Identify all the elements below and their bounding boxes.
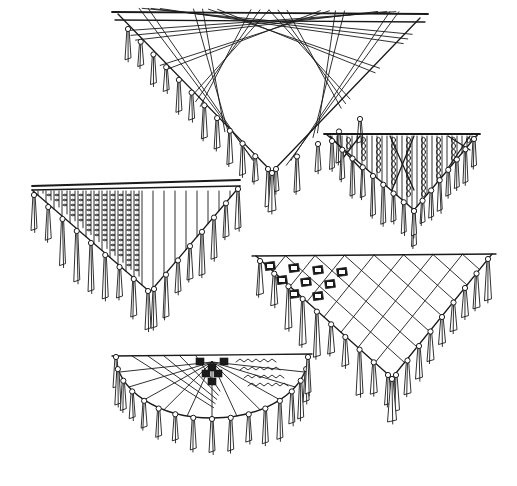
fringe-knot bbox=[187, 244, 192, 249]
fringe-tassel bbox=[257, 258, 264, 297]
fringe-knot bbox=[439, 314, 444, 319]
fringe-tassel bbox=[156, 406, 162, 439]
fringe-knot bbox=[471, 136, 476, 141]
fringe-knot bbox=[189, 90, 194, 95]
stripe-embroidery bbox=[95, 209, 99, 211]
fringe-tassel bbox=[125, 26, 131, 61]
fringe-knot bbox=[428, 329, 433, 334]
zigzag-band bbox=[240, 367, 280, 370]
top-edge bbox=[32, 186, 240, 190]
fringe-strand bbox=[280, 402, 281, 442]
fringe-tassel bbox=[356, 347, 363, 397]
fringe-tassel bbox=[187, 244, 193, 283]
fringe-knot bbox=[454, 157, 459, 162]
motif-square-inner bbox=[339, 270, 345, 274]
stripe-embroidery bbox=[127, 219, 131, 221]
fringe-tassel bbox=[446, 167, 451, 198]
fringe-tassel bbox=[235, 186, 241, 231]
motif-square-inner bbox=[291, 292, 297, 296]
fringe-tassel bbox=[31, 192, 37, 232]
fringe-knot bbox=[269, 170, 274, 175]
fringe-knot bbox=[138, 39, 143, 44]
stripe-embroidery bbox=[95, 234, 99, 236]
fringe-strand bbox=[158, 410, 159, 440]
stripe-embroidery bbox=[127, 234, 131, 236]
fringe-knot bbox=[121, 378, 126, 383]
stripe-embroidery bbox=[103, 194, 107, 196]
stripe-embroidery bbox=[111, 199, 115, 201]
lattice-line bbox=[463, 254, 480, 269]
fringe-knot bbox=[151, 52, 156, 57]
stripe-embroidery bbox=[127, 259, 131, 261]
stripe-embroidery bbox=[127, 229, 131, 231]
stripe-embroidery bbox=[119, 234, 123, 236]
stripe-embroidery bbox=[63, 199, 67, 201]
stripe-embroidery bbox=[111, 234, 115, 236]
fringe-knot bbox=[411, 208, 416, 213]
fringe-tassel bbox=[485, 256, 492, 302]
fringe-tassel bbox=[131, 276, 137, 319]
fringe-tassel bbox=[74, 228, 80, 283]
stripe-embroidery bbox=[135, 244, 139, 246]
fringe-knot bbox=[103, 252, 108, 257]
fringe-knot bbox=[429, 188, 434, 193]
stripe-embroidery bbox=[103, 204, 107, 206]
fringe-knot bbox=[223, 201, 228, 206]
fringe-knot bbox=[164, 65, 169, 70]
illustration-canvas bbox=[0, 0, 517, 486]
stripe-embroidery bbox=[119, 224, 123, 226]
stripe-embroidery bbox=[111, 224, 115, 226]
fringe-knot bbox=[485, 256, 490, 261]
fringe-knot bbox=[125, 26, 130, 31]
stripe-embroidery bbox=[135, 219, 139, 221]
motif-square-inner bbox=[303, 280, 309, 284]
stripe-embroidery bbox=[71, 194, 75, 196]
radiating-rib bbox=[212, 362, 280, 400]
fringe-knot bbox=[253, 154, 258, 159]
stripe-embroidery bbox=[87, 224, 91, 226]
fringe-tassel bbox=[214, 115, 220, 151]
fringe-knot bbox=[314, 309, 319, 314]
stripe-embroidery bbox=[111, 249, 115, 251]
fringe-strand bbox=[431, 191, 432, 220]
fringe-tassel bbox=[172, 412, 178, 443]
shawl-embroidered-right bbox=[324, 134, 480, 249]
motif-square bbox=[202, 370, 210, 377]
stripe-embroidery bbox=[87, 229, 91, 231]
stripe-embroidery bbox=[127, 224, 131, 226]
motif-square-inner bbox=[315, 268, 321, 272]
fringe-knot bbox=[381, 182, 386, 187]
fringe-tassel bbox=[289, 389, 295, 426]
stripe-embroidery bbox=[127, 254, 131, 256]
fringe-tassel bbox=[342, 334, 349, 368]
stripe-embroidery bbox=[127, 244, 131, 246]
stripe-embroidery bbox=[79, 209, 83, 211]
fringe-tassel bbox=[223, 201, 229, 240]
stripe-embroidery bbox=[63, 204, 67, 206]
stripe-embroidery bbox=[95, 224, 99, 226]
fringe-tassel bbox=[370, 173, 375, 218]
fringe-tassel bbox=[429, 188, 434, 220]
fringe-knot bbox=[463, 147, 468, 152]
fringe-tassel bbox=[454, 157, 459, 191]
fringe-knot bbox=[142, 398, 147, 403]
stripe-embroidery bbox=[119, 214, 123, 216]
stripe-embroidery bbox=[119, 239, 123, 241]
stripe-embroidery bbox=[71, 209, 75, 211]
fringe-knot bbox=[420, 198, 425, 203]
stripe-embroidery bbox=[103, 224, 107, 226]
fringe-tassel bbox=[141, 398, 147, 430]
top-edge bbox=[32, 180, 240, 186]
fringe-knot bbox=[211, 215, 216, 220]
stripe-embroidery bbox=[119, 194, 123, 196]
fringe-tassel bbox=[138, 39, 144, 68]
motif-square-inner bbox=[327, 282, 333, 286]
stripe-embroidery bbox=[87, 209, 91, 211]
fringe-tassel bbox=[391, 191, 396, 224]
shawl-striped-left bbox=[31, 180, 241, 332]
fringe-knot bbox=[350, 156, 355, 161]
stripe-embroidery bbox=[135, 224, 139, 226]
fringe-tassel bbox=[416, 343, 423, 381]
stripe-embroidery bbox=[103, 229, 107, 231]
fringe-knot bbox=[360, 165, 365, 170]
